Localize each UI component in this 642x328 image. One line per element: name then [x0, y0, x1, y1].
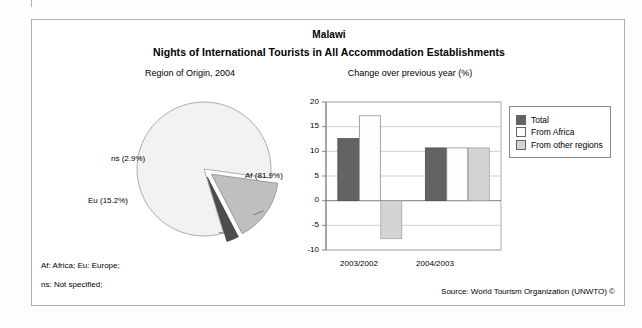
pie-label-eu: Eu (15.2%) — [88, 196, 128, 205]
footnote-abbreviations: Af: Africa; Eu: Europe; — [41, 261, 120, 270]
bar-total-2004-2003[interactable] — [425, 148, 446, 201]
bar-from-africa-2004-2003[interactable] — [447, 148, 468, 201]
bar-axes — [322, 102, 326, 250]
pie-chart: ns (2.9%) Eu (15.2%) Af (81.9%) — [62, 86, 312, 256]
footnote-not-specified: ns: Not specified; — [41, 280, 102, 289]
bar-panel-title: Change over previous year (%) — [300, 68, 520, 78]
y-tick-label: 20 — [297, 97, 319, 106]
legend-item-from-africa[interactable]: From Africa — [516, 127, 603, 137]
y-tick-label: -5 — [297, 220, 319, 229]
y-tick-label: 15 — [297, 121, 319, 130]
chart-frame: Malawi Nights of International Tourists … — [31, 19, 625, 306]
page-title-subject: Nights of International Tourists in All … — [32, 46, 626, 58]
y-tick-label: 10 — [297, 146, 319, 155]
y-tick-label: 0 — [297, 195, 319, 204]
legend-item-from-other-regions[interactable]: From other regions — [516, 140, 603, 150]
bar-from-africa-2003-2002[interactable] — [359, 116, 380, 201]
page-corner-mark — [31, 0, 32, 7]
bar-chart: 20151050-5-10 2003/2002 2004/2003 Total … — [294, 84, 624, 284]
bar-from-other-regions-2004-2003[interactable] — [468, 148, 489, 201]
legend-item-total[interactable]: Total — [516, 115, 603, 125]
legend-swatch-total — [516, 115, 526, 125]
legend-swatch-from-africa — [516, 127, 526, 137]
chart-page: Malawi Nights of International Tourists … — [0, 0, 642, 328]
bar-total-2003-2002[interactable] — [338, 139, 359, 201]
page-title-country: Malawi — [32, 29, 626, 40]
y-tick-label: -10 — [297, 245, 319, 254]
legend-label-from-other-regions: From other regions — [531, 140, 603, 150]
legend-label-from-africa: From Africa — [531, 127, 574, 137]
legend-swatch-from-other-regions — [516, 140, 526, 150]
bar-category-label-0: 2003/2002 — [324, 259, 394, 268]
pie-label-af: Af (81.9%) — [245, 171, 283, 180]
pie-panel-title: Region of Origin, 2004 — [90, 68, 290, 78]
bar-legend: Total From Africa From other regions — [509, 106, 611, 158]
y-tick-label: 5 — [297, 171, 319, 180]
bar-category-label-1: 2004/2003 — [400, 259, 470, 268]
pie-label-ns: ns (2.9%) — [111, 154, 145, 163]
legend-label-total: Total — [531, 115, 549, 125]
footer-source: Source: World Tourism Organization (UNWT… — [441, 287, 615, 296]
bar-from-other-regions-2003-2002[interactable] — [381, 201, 402, 239]
